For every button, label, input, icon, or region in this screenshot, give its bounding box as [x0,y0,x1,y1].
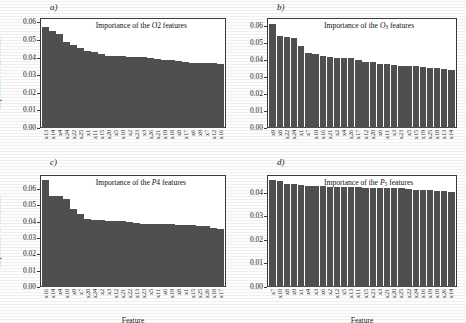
x-axis-tick-label: x25 [78,130,84,139]
x-axis-tick-label: x17 [218,289,224,298]
x-axis-tick-label: x18 [211,289,217,298]
y-axis-tick-mark [264,94,267,95]
x-axis-tick: x4 [341,130,348,156]
bar [341,187,347,287]
bar-series [269,175,455,287]
x-axis-tick: x25 [77,130,84,156]
x-axis-tick: x11 [355,289,362,315]
x-axis-tick: x14 [448,130,455,156]
bar [427,68,433,128]
x-axis-tick: x2 [333,130,340,156]
bar [217,64,223,128]
x-axis-tick: x9 [70,289,77,315]
x-axis-tick: x10 [276,289,283,315]
bar [305,53,311,128]
x-axis-tick: x10 [312,130,319,156]
x-axis-tick-label: x10 [277,289,283,298]
y-axis-title: Importance of the feature [0,175,2,287]
bar [84,219,90,287]
x-axis-tick-label: x6 [190,130,196,136]
x-axis-tick-label: x26 [204,289,210,298]
bar [49,196,55,287]
x-axis-tick-label: x23 [141,289,147,298]
x-axis-tick-label: x21 [155,130,161,139]
x-axis-tick-label: x7 [270,289,276,295]
x-axis-tick-label: x12 [334,289,340,298]
x-axis-tick-labels: x13x14x4x24x22x25x1x11x15x20x5x10x2x23x3… [42,130,224,156]
x-axis-tick: x26 [147,130,154,156]
x-axis-tick: x1 [182,289,189,315]
x-axis-tick-label: x24 [92,289,98,298]
bar-series [269,18,455,128]
x-axis-tick: x24 [91,289,98,315]
y-axis-tick-label: 0.02 [233,235,263,244]
bar [196,226,202,287]
x-axis-tick: x11 [91,130,98,156]
panel-tag: d) [277,157,285,167]
x-axis-tick-label: x21 [384,289,390,298]
bar [175,61,181,128]
x-axis-tick: x11 [154,289,161,315]
bar [312,54,318,128]
bar [133,57,139,128]
x-axis-tick-label: x16 [43,289,49,298]
y-axis-tick-label: 0.06 [233,21,263,30]
x-axis-tick-label: x26 [148,130,154,139]
x-axis-tick-label: x19 [427,289,433,298]
x-axis-tick-label: x19 [169,289,175,298]
bar [441,69,447,128]
y-axis-tick-mark [264,77,267,78]
bar [405,189,411,287]
bar [334,58,340,128]
x-axis-tick: x23 [133,130,140,156]
x-axis-tick: x14 [49,130,56,156]
x-axis-tick: x19 [426,289,433,315]
x-axis-tick: x6 [189,130,196,156]
x-axis-tick-label: x2 [99,289,105,295]
bar [348,58,354,128]
x-axis-tick-label: x20 [391,289,397,298]
x-axis-tick-label: x3 [106,289,112,295]
bar [217,229,223,287]
x-axis-tick-label: x10 [313,130,319,139]
x-axis-tick-label: x4 [57,130,63,136]
bar [42,27,48,128]
x-axis-tick: x21 [154,130,161,156]
x-axis-tick: x16 [419,289,426,315]
y-axis-tick-mark [37,58,40,59]
y-axis-tick-label: 0.06 [6,17,36,26]
bar [175,225,181,287]
x-axis-tick: x26 [348,130,355,156]
bar [327,187,333,287]
bar [441,191,447,287]
x-axis-tick-label: x25 [427,130,433,139]
x-axis-tick: x22 [405,289,412,315]
x-axis-tick: x5 [405,130,412,156]
x-axis-tick-label: x24 [291,130,297,139]
y-axis-tick-mark [37,22,40,23]
bar [377,188,383,287]
bar [320,186,326,287]
bar [320,56,326,128]
x-axis-tick: x17 [355,130,362,156]
y-axis-tick-label: 0.03 [233,72,263,81]
bar [291,184,297,287]
y-axis-tick-label: 0.03 [6,70,36,79]
bar [391,188,397,287]
bar [161,60,167,128]
x-axis-tick-label: x9 [291,289,297,295]
x-axis-tick-label: x16 [320,130,326,139]
x-axis-tick-label: x22 [127,289,133,298]
x-axis-tick-label: x20 [370,130,376,139]
x-axis-tick: x15 [98,130,105,156]
x-axis-tick: x24 [63,130,70,156]
x-axis-tick-label: x19 [420,130,426,139]
y-axis-tick-mark [264,263,267,264]
y-axis-tick-label: 0.02 [6,249,36,258]
x-axis-tick-label: x23 [134,130,140,139]
x-axis-tick: x16 [42,289,49,315]
x-axis-tick: x3 [376,289,383,315]
panel-tag: c) [50,157,57,167]
x-axis-tick: x4 [305,289,312,315]
x-axis-tick-label: x16 [218,130,224,139]
